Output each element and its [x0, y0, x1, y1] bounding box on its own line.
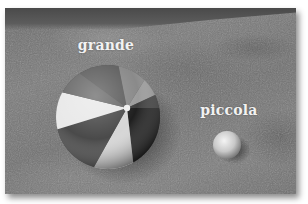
- beach-photo: grande piccola: [5, 8, 296, 194]
- beach-ball-valve: [124, 105, 130, 111]
- small-ball: [213, 131, 241, 159]
- label-grande: grande: [78, 37, 134, 53]
- label-piccola: piccola: [200, 102, 257, 118]
- balls-layer: [5, 8, 296, 194]
